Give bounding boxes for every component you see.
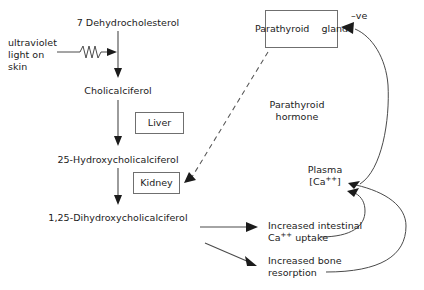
label-parathyroid-hormone-line2: hormone — [276, 111, 319, 123]
label-ultraviolet-line3: skin — [8, 61, 27, 73]
uv-squiggle-icon — [80, 46, 101, 58]
arrowhead-uv-to-trunk — [107, 48, 117, 56]
node-kidney: Kidney — [133, 172, 180, 194]
arrowhead-bone-to-plasma — [348, 181, 360, 189]
label-1-25-dihydroxycholicalciferol: 1,25-Dihydroxycholicalciferol — [48, 212, 187, 224]
diagram-connectors — [0, 0, 424, 290]
parathyroid-gland-line1: Parathyroid — [255, 23, 309, 35]
label-parathyroid-hormone-line1: Parathyroid — [270, 99, 325, 111]
plasma-calcium-charge: ++ — [326, 175, 338, 183]
arrowhead-to-hydroxy — [114, 136, 122, 146]
arrowhead-to-dihydroxy — [114, 195, 122, 205]
plasma-calcium-post: ] — [337, 176, 341, 187]
label-increased-bone-line2: resorption — [268, 267, 317, 279]
intestinal-calcium-charge: ++ — [281, 231, 293, 239]
arrowhead-hormone-to-kidney — [184, 172, 196, 183]
arrow-dihydroxy-to-bone-shaft — [205, 243, 249, 262]
plasma-calcium-pre: [Ca — [309, 176, 325, 187]
label-25-hydroxycholicalciferol: 25-Hydroxycholicalciferol — [57, 154, 178, 166]
arrowhead-intestinal-to-plasma — [347, 188, 359, 197]
arrowhead-to-cholicalciferol — [114, 68, 122, 78]
label-plasma: Plasma — [308, 164, 343, 176]
label-ultraviolet-line1: ultraviolet — [8, 37, 57, 49]
dashed-parathyroid-hormone-to-kidney — [192, 52, 268, 177]
label-ultraviolet-line2: light on — [8, 49, 44, 61]
pathway-diagram: 7 Dehydrocholesterol ultraviolet light o… — [0, 0, 424, 290]
label-increased-intestinal-line1: Increased intestinal — [268, 220, 362, 232]
node-parathyroid-gland: Parathyroid gland — [265, 10, 338, 48]
node-liver: Liver — [135, 112, 184, 134]
label-plasma-calcium: [Ca++] — [309, 176, 341, 188]
intestinal-calcium-post: uptake — [292, 232, 328, 243]
arrowhead-to-bone-resorption — [245, 256, 257, 266]
arrowhead-to-intestinal-uptake — [246, 222, 258, 232]
parathyroid-gland-line2: gland — [321, 23, 348, 35]
label-increased-intestinal-line2: Ca++ uptake — [268, 232, 328, 244]
label-7-dehydrocholesterol: 7 Dehydrocholesterol — [77, 17, 180, 29]
intestinal-calcium-pre: Ca — [268, 232, 281, 243]
label-negative-feedback: –ve — [351, 10, 367, 22]
label-increased-bone-line1: Increased bone — [268, 255, 342, 267]
loop-plasma-negative-feedback-to-gland — [355, 29, 388, 184]
label-cholicalciferol: Cholicalciferol — [84, 85, 151, 97]
